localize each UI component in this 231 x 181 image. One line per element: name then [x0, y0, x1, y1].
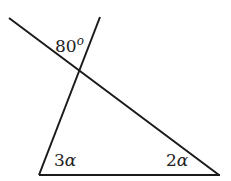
exterior-angle-label: 80o — [55, 34, 84, 56]
left-angle-label: 3α — [54, 150, 77, 170]
right-angle-label: 2α — [166, 150, 189, 170]
triangle-diagram: 80o 3α 2α — [0, 0, 231, 181]
